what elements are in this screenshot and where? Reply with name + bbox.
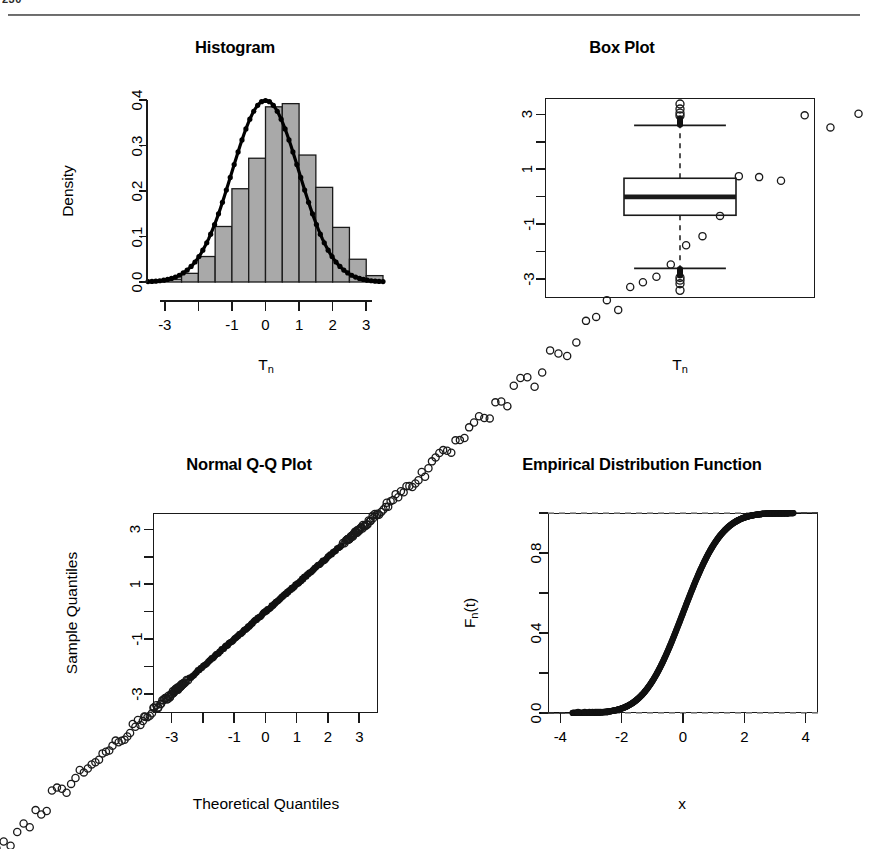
ecdf-point — [603, 709, 610, 716]
qqplot-point — [456, 436, 463, 443]
boxplot-outlier — [677, 272, 683, 278]
qqplot-x-tick — [233, 713, 235, 723]
histogram-y-axis-label: Density — [59, 165, 77, 217]
ecdf-canvas — [548, 513, 818, 713]
boxplot-y-tick-label: -3 — [520, 272, 537, 285]
qqplot-y-tick-label: -3 — [128, 687, 145, 700]
histogram-density-point — [267, 99, 272, 104]
ecdf-plot-area — [548, 513, 818, 713]
ecdf-x-tick-label: 2 — [740, 728, 748, 745]
boxplot-y-tick — [536, 141, 545, 143]
histogram-bars — [148, 104, 383, 282]
boxplot-y-tick — [536, 114, 545, 116]
qqplot-y-tick-label: -1 — [128, 632, 145, 645]
histogram-density-point — [216, 211, 221, 216]
histogram-x-tick — [231, 301, 233, 311]
qqplot-canvas — [153, 513, 378, 713]
qqplot-y-axis-label: Sample Quantiles — [63, 552, 81, 674]
ecdf-y-tick — [539, 672, 548, 674]
histogram-bar — [232, 189, 249, 282]
boxplot-glyph — [624, 100, 736, 294]
qqplot-point — [461, 434, 468, 441]
qqplot-y-tick — [144, 611, 153, 613]
histogram-density-point — [243, 126, 248, 131]
histogram-x-tick-label: 2 — [328, 316, 336, 333]
ecdf-x-tick — [621, 713, 623, 723]
histogram-y-tick-label: 0.3 — [128, 135, 145, 156]
ecdf-y-tick — [539, 512, 548, 514]
qqplot-x-tick — [265, 713, 267, 723]
ecdf-x-tick-label: 0 — [679, 728, 687, 745]
boxplot-plot-area — [545, 98, 815, 298]
qqplot-plot-area — [153, 513, 378, 713]
qqplot-x-tick-label: -1 — [228, 728, 241, 745]
qqplot-x-tick-label: 1 — [293, 728, 301, 745]
ecdf-point — [784, 510, 791, 517]
histogram-x-tick-label: -1 — [225, 316, 238, 333]
qqplot-x-tick — [171, 713, 173, 723]
ecdf-point — [790, 510, 796, 516]
histogram-density-point — [220, 200, 225, 205]
boxplot-y-tick-label: 3 — [518, 110, 535, 118]
qqplot-point — [7, 842, 14, 849]
panel-histogram: Histogram 0.00.10.20.30.4 -3-10123 Densi… — [40, 38, 430, 398]
qqplot-x-axis-label: Theoretical Quantiles — [193, 795, 339, 813]
histogram-density-point — [290, 149, 295, 154]
qqplot-point — [63, 789, 70, 796]
histogram-density-point — [185, 267, 190, 272]
histogram-x-tick-label: -3 — [158, 316, 171, 333]
qqplot-point — [504, 403, 511, 410]
histogram-density-point — [212, 222, 217, 227]
qqplot-point — [486, 415, 493, 422]
histogram-density-point — [294, 162, 299, 167]
histogram-density-point — [279, 117, 284, 122]
qqplot-x-tick-label: 2 — [324, 728, 332, 745]
boxplot-y-tick — [536, 251, 545, 253]
qqplot-y-tick — [144, 583, 153, 585]
histogram-x-tick — [198, 301, 200, 311]
histogram-density-point — [232, 162, 237, 167]
qqplot-point — [14, 828, 21, 835]
header-divider — [8, 14, 860, 16]
histogram-density-point — [224, 187, 229, 192]
histogram-bar — [249, 158, 266, 282]
histogram-density-point — [251, 109, 256, 114]
boxplot-x-axis-label: Tn — [672, 356, 688, 375]
histogram-x-tick — [365, 301, 367, 311]
ecdf-y-tick — [539, 592, 548, 594]
qqplot-point — [58, 785, 65, 792]
qqplot-y-tick-label: 1 — [126, 580, 143, 588]
histogram-canvas — [148, 100, 383, 282]
histogram-density-point — [271, 103, 276, 108]
qqplot-x-tick-label: -3 — [165, 728, 178, 745]
qqplot-x-tick — [202, 713, 204, 723]
qqplot-point — [0, 838, 7, 845]
ecdf-x-tick — [744, 713, 746, 723]
page-header: 230 — [0, 0, 869, 30]
histogram-density-point — [192, 259, 197, 264]
qqplot-x-tick — [358, 713, 360, 723]
boxplot-outlier — [676, 100, 684, 108]
histogram-density-point — [255, 103, 260, 108]
page-number: 230 — [2, 0, 22, 3]
boxplot-outlier — [677, 116, 683, 122]
histogram-x-tick-label: 0 — [261, 316, 269, 333]
boxplot-y-tick — [536, 196, 545, 198]
histogram-density-point — [302, 187, 307, 192]
ecdf-y-tick-label: 0.4 — [527, 623, 544, 644]
histogram-density-point — [239, 137, 244, 142]
histogram-density-point — [314, 222, 319, 227]
ecdf-x-tick — [805, 713, 807, 723]
ecdf-x-tick-label: 4 — [802, 728, 810, 745]
ecdf-y-axis-label-main: F — [461, 619, 478, 628]
boxplot-canvas — [545, 98, 815, 298]
panel-ecdf: Empirical Distribution Function 0.00.40.… — [440, 455, 860, 845]
qqplot-point — [72, 774, 79, 781]
histogram-density-point — [282, 126, 287, 131]
ecdf-point — [575, 709, 582, 716]
panel-boxplot: Box Plot -3-113 Tn — [450, 38, 850, 398]
ecdf-points — [569, 510, 796, 716]
histogram-density-point — [306, 200, 311, 205]
qqplot-x-tick-label: 3 — [355, 728, 363, 745]
histogram-density-point — [247, 117, 252, 122]
